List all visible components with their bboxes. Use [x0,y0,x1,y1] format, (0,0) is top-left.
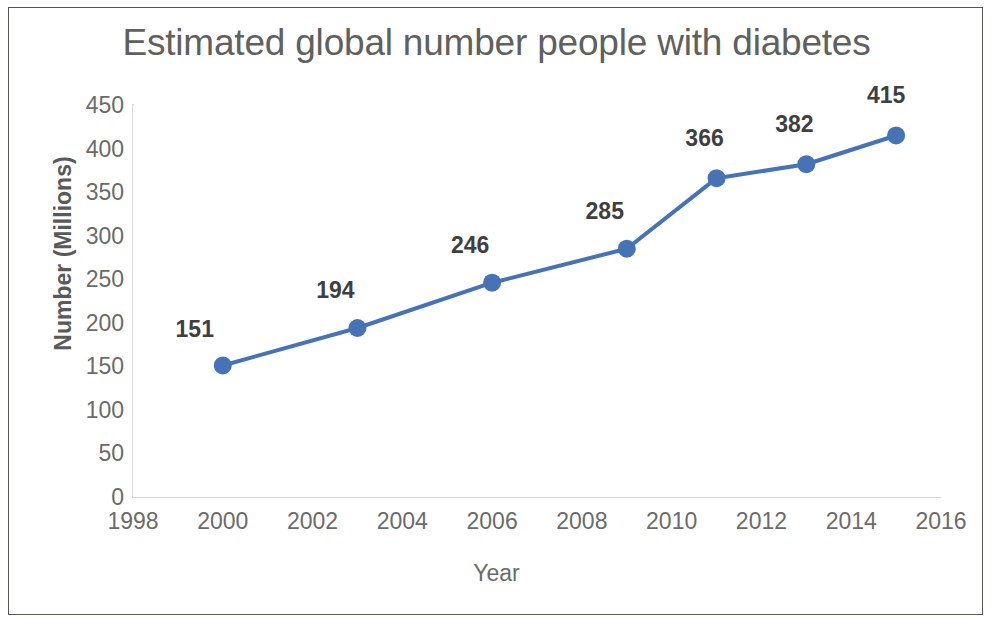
x-tick-label: 2012 [736,508,787,535]
data-point-marker [887,126,905,144]
data-point-marker [708,169,726,187]
series-line [223,135,896,365]
x-tick-label: 2004 [377,508,428,535]
data-point-label: 151 [176,316,214,343]
data-point-marker [214,356,232,374]
chart-figure: Estimated global number people with diab… [0,0,993,626]
x-axis-title: Year [0,560,993,587]
data-point-label: 194 [316,277,354,304]
x-tick-label: 2008 [556,508,607,535]
data-point-marker [483,274,501,292]
data-point-marker [797,155,815,173]
data-point-label: 415 [867,82,905,109]
data-point-marker [348,319,366,337]
x-tick-label: 2006 [467,508,518,535]
x-tick-label: 1998 [107,508,158,535]
x-tick-label: 2000 [197,508,248,535]
x-axis-tick-labels: 1998200020022004200620082010201220142016 [0,508,993,548]
data-point-label: 246 [451,232,489,259]
x-tick-label: 2010 [646,508,697,535]
data-point-label: 382 [775,111,813,138]
x-tick-label: 2016 [915,508,966,535]
data-point-label: 285 [586,198,624,225]
data-point-marker [618,240,636,258]
x-tick-label: 2002 [287,508,338,535]
x-tick-label: 2014 [826,508,877,535]
data-point-label: 366 [685,125,723,152]
